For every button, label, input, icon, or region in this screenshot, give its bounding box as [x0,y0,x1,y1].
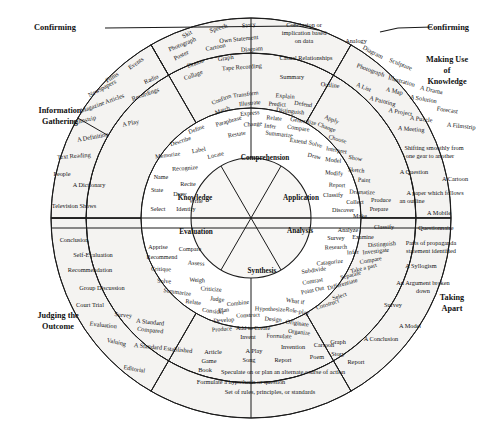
prod-song: Song [243,356,257,363]
prod-propaganda-2: statement identified [406,247,457,254]
verb-recognize: Recognize [172,164,198,172]
verb-consider: Consider [202,307,225,315]
prod-book: Book [198,366,212,373]
confirming-left-label: Confirming [34,23,77,32]
verb-what-if: What if [286,297,306,306]
prod-survey-an: Survey [384,301,403,308]
prod-questionnaire: Questionnaire [418,224,454,231]
verb-role-play: Role-play [285,306,311,316]
prod-a-model: A Model [399,322,421,329]
verb-compare-e: Compare [179,246,202,252]
prod-a-syllogism: A Syllogism [405,262,436,269]
verb-modify: Modify [325,169,345,176]
verb-make: Make [353,213,367,219]
prod-self-evaluation: Self-Evaluation [73,251,113,258]
verb-invent: Invent [240,334,256,340]
verb-solve-e: Solve [157,278,172,285]
verb-write: Write [189,198,203,204]
prod-forecast: Forecast [436,105,458,115]
prod-casual-relationships: Casual Relationships [280,54,334,61]
prod-court-trial: Court Trial [76,301,104,308]
verb-change-c: Change [243,120,262,127]
prod-poem: Poem [310,353,324,360]
verb-infer-an: Infer [347,249,359,256]
verb-criticize: Criticize [200,285,222,292]
corner-making-use-2: of [444,66,451,75]
prod-report-s: Report [274,356,291,363]
verb-produce-a: Produce [371,197,391,203]
verb-extend: Extend [289,137,307,145]
verb-identify: Identify [176,206,196,212]
prod-a-play-s: A Play [246,347,264,354]
verb-assess: Assess [188,259,206,266]
core-application: Application [283,194,319,202]
prod-television-shows: Television Shows [52,202,97,209]
verb-apprise: Apprise [148,244,168,250]
verb-collect: Collect [346,199,364,205]
prod-set-of-rules: Set of rules, principles, or standards [225,388,316,395]
verb-paint: Paint [358,177,371,184]
prod-a-cartoon: A Cartoon [442,175,469,182]
verb-infer-c: Infer [264,122,276,129]
corner-taking-apart-1: Taking [440,293,465,302]
verb-critique: Critique [151,266,171,273]
verb-express: Express [240,109,260,117]
prod-invention: Invention [281,343,306,350]
verb-analyze: Analyze [338,227,359,233]
core-synthesis: Synthesis [248,267,277,275]
verb-model: Model [325,156,342,164]
verb-construct-s: Construct [236,312,260,319]
verb-draw-a: Draw [307,152,322,161]
verb-weigh: Weigh [189,276,205,283]
prod-recommendation: Recommendation [68,266,113,273]
verb-label: Label [191,146,206,154]
prod-group-discussion: Group Discussion [79,284,125,291]
confirming-right-label: Confirming [427,23,470,32]
prod-conclusion-3: on data [295,37,314,44]
prod-sculpture: Sculpture [388,56,413,72]
corner-judging-2: Outcome [42,322,74,331]
corner-taking-apart-2: Apart [442,304,463,313]
prod-game: Game [201,357,216,364]
verb-sketch: Sketch [348,166,365,174]
verb-state: State [151,187,163,193]
verb-examine: Examine [352,234,374,240]
confirming-right-tick [380,28,398,32]
prod-a-paper-1: A paper which follows [406,189,464,196]
verb-design: Design [264,315,282,322]
prod-propaganda-1: Parts of propaganda [406,239,457,246]
prod-formulate-hypothesis: Formulate a hypothesis or question [197,378,286,385]
prod-speculate: Speculate on or plan an alternate course… [221,368,346,375]
verb-restate: Restate [227,129,246,138]
prod-people: People [53,170,70,177]
verb-select-k: Select [151,206,166,212]
prod-cartoon-s: Cartoon [314,341,335,348]
prod-summary: Summary [280,73,305,80]
verb-add-to-create: Add to Create [236,325,270,331]
prod-article: Article [204,348,222,355]
verb-solve-a: Solve [308,139,323,149]
verb-relate-e: Relate [185,298,202,306]
prod-conclusion-e: Conclusion [60,236,90,243]
verb-report-a: Report [329,182,346,189]
prod-report-an: Report [347,358,364,365]
prod-a-mobile: A Mobile [427,209,451,216]
verb-locate: Locate [207,150,225,160]
corner-judging-1: Judging the [37,311,79,320]
core-comprehension: Comprehension [241,154,290,162]
verb-classify-a: Classify [323,192,344,198]
corner-making-use-1: Making Use [426,55,468,64]
prod-an-argument-1: An Argument broken [396,279,450,286]
prod-story-s: Story [331,350,345,357]
prod-a-question: A Question [400,168,429,175]
verb-paraphrase: Paraphrase [215,114,243,127]
verb-judge: Judge [210,295,225,302]
verb-prepare: Prepare [370,206,389,212]
verb-draw-k: Draw [173,191,187,197]
core-evaluation: Evaluation [179,228,213,236]
prod-shifting-2: one gear to another [406,152,455,159]
prod-a-dictionary: A Dictionary [73,181,107,188]
prod-conclusion-1: Conclusion or [286,21,322,28]
verb-dramatize: Dramatize [349,189,375,196]
verb-classify-an: Classify [374,224,395,230]
